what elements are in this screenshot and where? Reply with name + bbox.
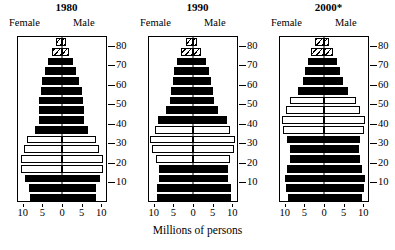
age-tick xyxy=(108,65,115,66)
female-bar xyxy=(42,77,62,85)
age-tick xyxy=(108,46,115,47)
age-tick xyxy=(370,104,377,105)
female-bar xyxy=(288,194,324,202)
male-bar xyxy=(324,145,359,153)
female-bar xyxy=(166,106,193,114)
female-bar xyxy=(311,48,324,56)
age-tick-label: 60 xyxy=(116,80,127,90)
value-tick-label: 0 xyxy=(190,207,195,219)
age-tick-label: 80 xyxy=(378,41,389,51)
female-bar xyxy=(174,67,193,75)
male-bar xyxy=(62,97,83,105)
male-bar xyxy=(193,48,201,56)
pyramid-panel-1980: 1980FemaleMale10203040506070801050510 xyxy=(1,0,132,250)
male-bar xyxy=(193,126,230,134)
age-tick xyxy=(239,143,246,144)
female-bar xyxy=(35,126,62,134)
male-bar xyxy=(62,165,103,173)
male-bar xyxy=(324,184,364,192)
age-tick xyxy=(108,85,115,86)
female-bar xyxy=(287,165,324,173)
female-bar xyxy=(287,136,324,144)
center-axis-line xyxy=(324,37,325,201)
male-bar xyxy=(193,58,206,66)
age-tick-label: 10 xyxy=(378,177,389,187)
age-tick xyxy=(239,85,246,86)
age-axis: 1020304050607080 xyxy=(370,36,394,202)
age-tick xyxy=(370,143,377,144)
female-bar xyxy=(308,58,324,66)
sex-labels: FemaleMale xyxy=(132,17,263,31)
age-tick xyxy=(108,124,115,125)
female-bar xyxy=(303,77,324,85)
age-tick-label: 70 xyxy=(378,60,389,70)
age-tick-label: 70 xyxy=(116,60,127,70)
male-bar xyxy=(62,175,100,183)
value-tick-label: 0 xyxy=(321,207,326,219)
age-tick xyxy=(370,182,377,183)
value-tick-label: 5 xyxy=(79,207,84,219)
female-label: Female xyxy=(9,17,40,28)
female-bar xyxy=(27,136,62,144)
male-bar xyxy=(62,48,69,56)
male-bar xyxy=(324,155,360,163)
age-tick xyxy=(370,85,377,86)
age-tick xyxy=(108,143,115,144)
female-bar xyxy=(157,184,193,192)
value-tick-label: 10 xyxy=(96,207,107,219)
female-bar xyxy=(159,165,193,173)
male-bar xyxy=(62,77,79,85)
value-axis: 1050510 xyxy=(17,204,107,220)
age-tick-label: 50 xyxy=(247,99,258,109)
female-bar xyxy=(39,97,62,105)
male-bar xyxy=(324,126,364,134)
plot-area xyxy=(148,36,238,202)
age-tick xyxy=(108,163,115,164)
value-tick-label: 5 xyxy=(171,207,176,219)
male-label: Male xyxy=(73,17,95,28)
male-bar xyxy=(62,155,103,163)
age-axis: 1020304050607080 xyxy=(239,36,263,202)
female-bar xyxy=(290,145,324,153)
male-bar xyxy=(193,116,227,124)
age-tick-label: 40 xyxy=(116,119,127,129)
male-bar xyxy=(324,165,362,173)
female-bar xyxy=(39,116,62,124)
male-bar xyxy=(62,38,66,46)
female-bar xyxy=(171,87,193,95)
female-bar xyxy=(156,155,193,163)
center-axis-line xyxy=(193,37,194,201)
value-tick-label: 10 xyxy=(18,207,29,219)
female-bar xyxy=(25,175,62,183)
male-bar xyxy=(193,136,235,144)
female-bar xyxy=(41,87,62,95)
age-tick-label: 30 xyxy=(116,138,127,148)
age-tick-label: 30 xyxy=(247,138,258,148)
female-bar xyxy=(39,106,62,114)
male-bar xyxy=(324,116,365,124)
female-bar xyxy=(177,58,193,66)
female-bar xyxy=(29,184,62,192)
male-bar xyxy=(193,67,209,75)
male-bar xyxy=(324,106,360,114)
age-tick xyxy=(239,182,246,183)
male-label: Male xyxy=(204,17,226,28)
age-tick-label: 10 xyxy=(116,177,127,187)
male-bar xyxy=(324,58,337,66)
population-pyramid-figure: 1980FemaleMale10203040506070801050510199… xyxy=(0,0,395,250)
female-bar xyxy=(158,116,193,124)
age-tick-label: 20 xyxy=(247,158,258,168)
female-bar xyxy=(290,155,324,163)
pyramid-panel-1990: 1990FemaleMale10203040506070801050510 xyxy=(132,0,263,250)
male-bar xyxy=(62,145,99,153)
sex-labels: FemaleMale xyxy=(263,17,394,31)
female-bar xyxy=(152,145,193,153)
age-tick-label: 70 xyxy=(247,60,258,70)
age-tick-label: 20 xyxy=(378,158,389,168)
value-axis: 1050510 xyxy=(148,204,238,220)
pyramid-panel-2000: 2000*FemaleMale10203040506070801050510 xyxy=(263,0,394,250)
male-bar xyxy=(62,58,73,66)
female-bar xyxy=(285,175,324,183)
age-tick-label: 40 xyxy=(378,119,389,129)
value-tick-label: 5 xyxy=(40,207,45,219)
